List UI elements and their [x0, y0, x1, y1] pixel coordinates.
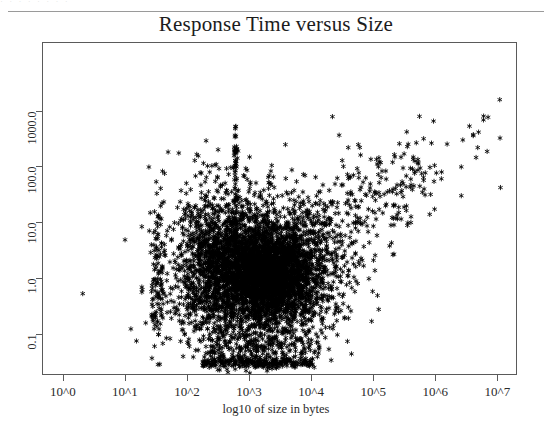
x-tick-4	[311, 375, 312, 381]
y-tick-label-wrap-2: 10.0	[0, 215, 32, 229]
x-tick-label-7: 10^7	[467, 384, 527, 400]
scatter-points	[43, 43, 516, 374]
y-tick-label-wrap-1: 100.0	[0, 159, 32, 173]
x-tick-label-4: 10^4	[281, 384, 341, 400]
x-tick-label-1: 10^1	[95, 384, 155, 400]
x-tick-6	[435, 375, 436, 381]
x-tick-label-5: 10^5	[343, 384, 403, 400]
x-tick-label-3: 10^3	[219, 384, 279, 400]
x-tick-5	[373, 375, 374, 381]
x-tick-7	[497, 375, 498, 381]
y-tick-label-wrap-4: 0.1	[0, 327, 32, 341]
x-axis-title: log10 of size in bytes	[0, 402, 552, 417]
x-tick-label-2: 10^2	[157, 384, 217, 400]
chart-title: Response Time versus Size	[0, 12, 552, 37]
x-tick-label-0: 10^0	[33, 384, 93, 400]
x-tick-3	[249, 375, 250, 381]
plot-area	[42, 42, 517, 375]
y-tick-label-wrap-0: 1000.0	[0, 104, 32, 118]
y-tick-label-wrap-3: 1.0	[0, 271, 32, 285]
x-tick-1	[125, 375, 126, 381]
scan-artifact-text: · · · · · · · ·	[0, 0, 552, 8]
x-tick-label-6: 10^6	[405, 384, 465, 400]
x-tick-2	[187, 375, 188, 381]
x-tick-0	[63, 375, 64, 381]
chart-page: · · · · · · · · Response Time versus Siz…	[0, 0, 552, 440]
